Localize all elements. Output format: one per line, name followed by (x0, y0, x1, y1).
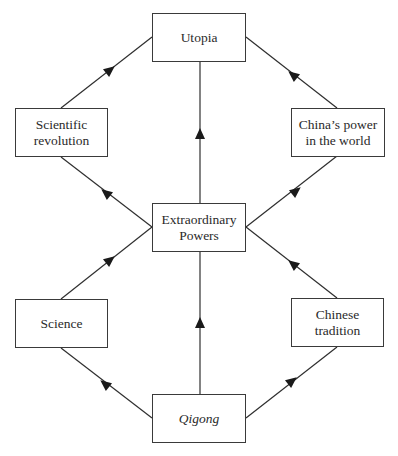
node-chinese-tradition: Chinese tradition (291, 298, 384, 347)
node-label-line2: revolution (34, 133, 90, 149)
node-label-line1: Chinese (316, 307, 360, 323)
node-utopia: Utopia (152, 13, 246, 62)
node-chinas-power: China’s power in the world (291, 108, 385, 157)
arrowhead-icon (195, 128, 205, 139)
node-label-line2: in the world (305, 133, 370, 149)
arrowhead-icon (289, 183, 304, 198)
node-scientific-revolution: Scientific revolution (15, 108, 108, 157)
arrowhead-icon (103, 252, 118, 267)
node-label-line1: China’s power (299, 117, 377, 133)
node-extraordinary-powers: Extraordinary Powers (152, 203, 246, 252)
arrowhead-icon (195, 317, 205, 328)
node-label: Qigong (179, 411, 220, 427)
node-science: Science (15, 299, 108, 348)
node-label-line1: Extraordinary (162, 212, 237, 228)
node-label: Utopia (181, 30, 218, 46)
node-label-line1: Scientific (36, 117, 88, 133)
node-qigong: Qigong (152, 394, 246, 443)
node-label-line2: Powers (179, 228, 219, 244)
arrowhead-icon (97, 376, 112, 391)
arrowhead-icon (103, 62, 118, 77)
node-label: Science (41, 316, 83, 332)
node-label-line2: tradition (315, 323, 361, 339)
